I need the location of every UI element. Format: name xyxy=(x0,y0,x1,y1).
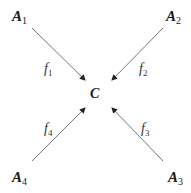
node-a3-sub: 3 xyxy=(178,176,183,187)
node-a1-sub: 1 xyxy=(22,15,27,26)
node-a1: A1 xyxy=(12,9,27,26)
node-a3: A3 xyxy=(168,170,183,187)
arrow-f3 xyxy=(112,108,163,161)
arrow-f2 xyxy=(112,28,163,80)
label-f2: f2 xyxy=(139,62,147,78)
node-c: C xyxy=(90,87,99,101)
label-f1-sub: 1 xyxy=(48,68,53,78)
node-a4-base: A xyxy=(12,169,22,185)
label-f4: f4 xyxy=(44,122,52,138)
node-a4: A4 xyxy=(12,170,27,187)
node-a2: A2 xyxy=(166,9,181,26)
label-f2-sub: 2 xyxy=(143,68,148,78)
node-a1-base: A xyxy=(12,8,22,24)
arrow-f4 xyxy=(32,108,85,161)
label-f3-sub: 3 xyxy=(145,128,150,138)
diagram-canvas: A1 A2 A4 A3 C f1 f2 f4 f3 xyxy=(0,0,191,193)
node-a4-sub: 4 xyxy=(22,176,27,187)
node-a2-base: A xyxy=(166,8,176,24)
label-f1: f1 xyxy=(44,62,52,78)
node-a3-base: A xyxy=(168,169,178,185)
node-a2-sub: 2 xyxy=(176,15,181,26)
arrow-f1 xyxy=(32,28,85,80)
label-f4-sub: 4 xyxy=(48,128,53,138)
label-f3: f3 xyxy=(141,122,149,138)
